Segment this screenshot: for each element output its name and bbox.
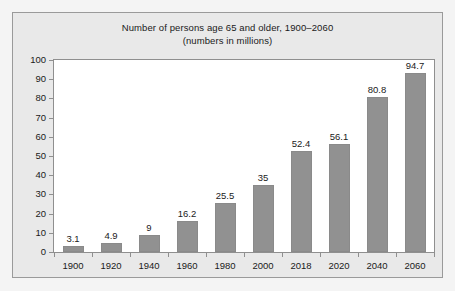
x-tick-mark bbox=[434, 253, 435, 257]
bar-value-label: 35 bbox=[258, 172, 269, 183]
x-axis-label: 1920 bbox=[92, 260, 130, 271]
bar-slot: 25.5 bbox=[206, 60, 244, 252]
bar-slot: 3.1 bbox=[54, 60, 92, 252]
x-axis-ticks bbox=[53, 253, 435, 258]
y-tick-mark bbox=[49, 60, 53, 61]
bar-slot: 9 bbox=[130, 60, 168, 252]
bar-value-label: 56.1 bbox=[330, 131, 349, 142]
bar-value-label: 16.2 bbox=[178, 208, 197, 219]
x-tick-mark bbox=[320, 253, 321, 257]
y-tick-mark bbox=[49, 175, 53, 176]
y-tick-mark bbox=[49, 194, 53, 195]
y-tick-label: 60 bbox=[35, 131, 46, 142]
y-tick-label: 10 bbox=[35, 227, 46, 238]
chart-figure: Number of persons age 65 and older, 1900… bbox=[0, 0, 455, 291]
bar bbox=[291, 151, 312, 252]
y-tick-label: 20 bbox=[35, 208, 46, 219]
y-tick-mark bbox=[49, 98, 53, 99]
y-tick-label: 90 bbox=[35, 73, 46, 84]
y-tick-mark bbox=[49, 79, 53, 80]
y-tick-mark bbox=[49, 233, 53, 234]
bar bbox=[139, 235, 160, 252]
y-tick-mark bbox=[49, 156, 53, 157]
chart-title: Number of persons age 65 and older, 1900… bbox=[13, 22, 442, 35]
x-tick-mark bbox=[282, 253, 283, 257]
bar-slot: 35 bbox=[244, 60, 282, 252]
bar-slot: 80.8 bbox=[358, 60, 396, 252]
y-axis: 1009080706050403020100 bbox=[13, 59, 53, 253]
bar bbox=[177, 221, 198, 252]
bar-value-label: 3.1 bbox=[66, 233, 79, 244]
bar-slot: 56.1 bbox=[320, 60, 358, 252]
bar-value-label: 94.7 bbox=[406, 60, 425, 71]
y-tick-mark bbox=[49, 118, 53, 119]
x-axis-label: 1900 bbox=[54, 260, 92, 271]
x-tick-mark bbox=[244, 253, 245, 257]
x-axis-label: 2020 bbox=[320, 260, 358, 271]
x-tick-mark bbox=[358, 253, 359, 257]
bar-series: 3.14.9916.225.53552.456.180.894.7 bbox=[54, 60, 434, 252]
bar-value-label: 80.8 bbox=[368, 84, 387, 95]
x-axis-label: 2000 bbox=[244, 260, 282, 271]
bar-value-label: 52.4 bbox=[292, 138, 311, 149]
x-tick-mark bbox=[396, 253, 397, 257]
x-axis-label: 2018 bbox=[282, 260, 320, 271]
chart-panel: Number of persons age 65 and older, 1900… bbox=[12, 12, 443, 278]
bar bbox=[63, 246, 84, 252]
y-tick-label: 0 bbox=[41, 246, 46, 257]
bar-slot: 94.7 bbox=[396, 60, 434, 252]
x-axis-labels: 1900192019401960198020002018202020402060 bbox=[54, 260, 434, 271]
x-axis-label: 1940 bbox=[130, 260, 168, 271]
y-tick-label: 80 bbox=[35, 92, 46, 103]
chart-subtitle: (numbers in millions) bbox=[13, 35, 442, 48]
x-tick-mark bbox=[130, 253, 131, 257]
x-axis-label: 2060 bbox=[396, 260, 434, 271]
bar-value-label: 9 bbox=[146, 222, 151, 233]
x-axis-label: 2040 bbox=[358, 260, 396, 271]
bar bbox=[329, 144, 350, 252]
y-tick-mark bbox=[49, 214, 53, 215]
chart-title-block: Number of persons age 65 and older, 1900… bbox=[13, 22, 442, 47]
y-tick-label: 100 bbox=[30, 54, 46, 65]
bar bbox=[101, 243, 122, 252]
bar bbox=[215, 203, 236, 252]
x-tick-mark bbox=[206, 253, 207, 257]
y-tick-label: 30 bbox=[35, 188, 46, 199]
y-tick-mark bbox=[49, 137, 53, 138]
bar-slot: 16.2 bbox=[168, 60, 206, 252]
x-axis-label: 1960 bbox=[168, 260, 206, 271]
y-tick-label: 70 bbox=[35, 112, 46, 123]
bar bbox=[405, 73, 426, 252]
bar-slot: 4.9 bbox=[92, 60, 130, 252]
bar bbox=[367, 97, 388, 252]
x-tick-mark bbox=[54, 253, 55, 257]
bar bbox=[253, 185, 274, 252]
y-tick-label: 40 bbox=[35, 169, 46, 180]
x-axis-label: 1980 bbox=[206, 260, 244, 271]
bar-value-label: 4.9 bbox=[104, 230, 117, 241]
y-tick-label: 50 bbox=[35, 150, 46, 161]
bar-value-label: 25.5 bbox=[216, 190, 235, 201]
x-tick-mark bbox=[168, 253, 169, 257]
x-tick-mark bbox=[92, 253, 93, 257]
bar-slot: 52.4 bbox=[282, 60, 320, 252]
